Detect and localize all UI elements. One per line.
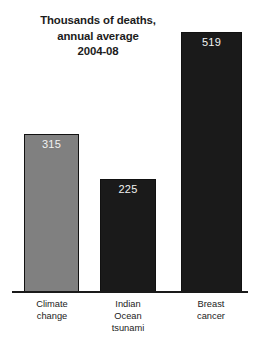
- bar-value-breast-cancer: 519: [182, 36, 241, 48]
- plot-area: 315 225 519: [0, 0, 260, 292]
- x-axis-line: [12, 291, 248, 293]
- category-label-breast-cancer: Breast cancer: [175, 298, 247, 322]
- bar-chart: Thousands of deaths, annual average 2004…: [0, 0, 260, 354]
- category-label-indian-ocean-tsunami: Indian Ocean tsunami: [92, 298, 164, 335]
- category-label-line-2: cancer: [175, 310, 247, 322]
- category-label-line-1: Climate: [16, 298, 88, 310]
- category-label-line-2: Ocean: [92, 310, 164, 322]
- category-label-line-1: Indian: [92, 298, 164, 310]
- bar-value-indian-ocean-tsunami: 225: [101, 183, 155, 195]
- category-label-line-2: change: [16, 310, 88, 322]
- category-label-line-3: tsunami: [92, 322, 164, 334]
- bar-value-climate-change: 315: [25, 138, 78, 150]
- category-label-climate-change: Climate change: [16, 298, 88, 322]
- bar-breast-cancer: 519: [181, 32, 242, 292]
- bar-climate-change: 315: [24, 134, 79, 292]
- category-label-line-1: Breast: [175, 298, 247, 310]
- bar-indian-ocean-tsunami: 225: [100, 179, 156, 292]
